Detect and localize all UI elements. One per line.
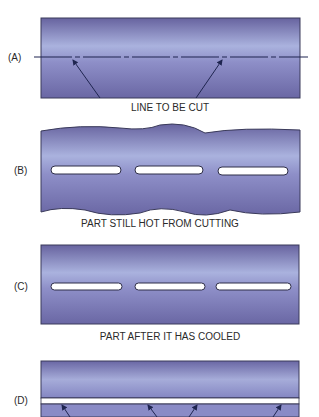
caption-a: LINE TO BE CUT bbox=[131, 102, 209, 113]
kerf-gap bbox=[41, 398, 299, 404]
slot-b-2 bbox=[135, 166, 203, 174]
plate-d-upper bbox=[41, 361, 299, 398]
panel-a: (A) LINE TO BE CUT bbox=[8, 18, 308, 113]
slot-c-1 bbox=[51, 283, 122, 290]
caption-b: PART STILL HOT FROM CUTTING bbox=[81, 218, 239, 229]
panel-label-b: (B) bbox=[14, 165, 27, 176]
plate-a bbox=[41, 18, 300, 98]
plate-d-lower bbox=[41, 404, 299, 417]
panel-b: (B) PART STILL HOT FROM CUTTING bbox=[14, 124, 300, 229]
panel-d: (D) bbox=[14, 361, 299, 417]
distortion-diagram: (A) LINE TO BE CUT (B) PART STILL HOT FR… bbox=[0, 0, 319, 417]
panel-label-a: (A) bbox=[8, 52, 21, 63]
slot-b-1 bbox=[51, 166, 121, 174]
panel-label-d: (D) bbox=[14, 395, 28, 406]
slot-b-3 bbox=[218, 167, 288, 175]
caption-c: PART AFTER IT HAS COOLED bbox=[100, 331, 240, 342]
panel-label-c: (C) bbox=[14, 281, 28, 292]
panel-c: (C) PART AFTER IT HAS COOLED bbox=[14, 245, 299, 342]
slot-c-2 bbox=[135, 283, 205, 290]
slot-c-3 bbox=[216, 283, 291, 290]
